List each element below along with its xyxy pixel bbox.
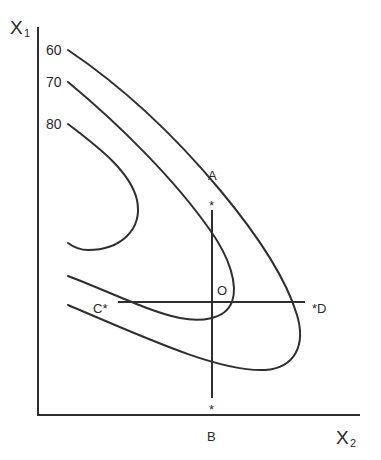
contour-60 (68, 50, 300, 370)
point-label-a: A (208, 168, 217, 183)
contour-80 (68, 124, 138, 250)
point-label-b: B (207, 429, 216, 444)
x-axis-label-subscript: 2 (350, 437, 356, 449)
contour-label-80: 80 (46, 116, 62, 132)
x-axis-label: X (336, 427, 349, 448)
contour-diagram: X 1 X 2 60 70 80 * * A O C* *D B (0, 0, 381, 460)
point-label-o: O (217, 283, 227, 298)
contour-label-60: 60 (46, 42, 62, 58)
star-bottom: * (209, 402, 214, 417)
y-axis-label: X (10, 17, 23, 38)
contour-label-70: 70 (46, 74, 62, 90)
y-axis-label-subscript: 1 (24, 27, 30, 39)
point-label-d: *D (312, 301, 326, 316)
point-label-c: C* (93, 301, 107, 316)
star-top: * (209, 198, 214, 213)
